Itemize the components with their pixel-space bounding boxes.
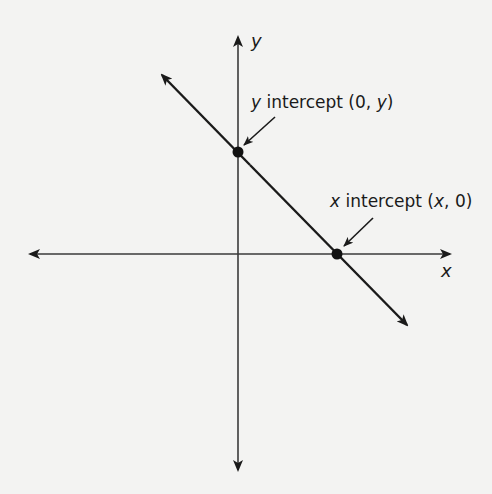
- x-axis-label: x: [441, 260, 452, 281]
- y-intercept-point: [233, 147, 244, 158]
- y-intercept-pointer-arrow: [244, 117, 275, 145]
- y-intercept-text: intercept (0,: [261, 92, 377, 112]
- x-intercept-var: x: [330, 191, 340, 211]
- y-intercept-close: ): [387, 92, 394, 112]
- coordinate-plane-diagram: y x y intercept (0, y) x intercept (x, 0…: [0, 0, 492, 494]
- x-intercept-pointer-arrow: [344, 218, 373, 246]
- y-intercept-var2: y: [377, 92, 387, 112]
- x-intercept-close: , 0): [444, 191, 472, 211]
- y-intercept-label: y intercept (0, y): [251, 92, 393, 112]
- y-intercept-var: y: [251, 92, 261, 112]
- x-intercept-point: [332, 249, 343, 260]
- x-intercept-label: x intercept (x, 0): [330, 191, 472, 211]
- y-axis-label: y: [251, 30, 262, 51]
- diagram-graphics: [0, 0, 492, 494]
- x-intercept-var2: x: [434, 191, 444, 211]
- x-intercept-text: intercept (: [340, 191, 434, 211]
